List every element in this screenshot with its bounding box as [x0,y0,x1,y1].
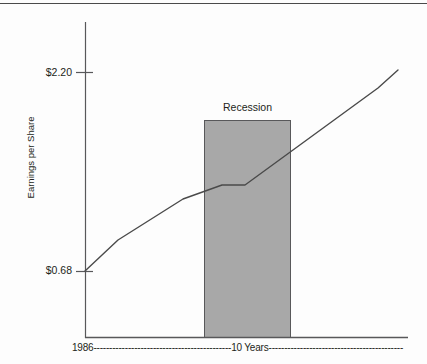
chart-figure: $2.20 $0.68 Earnings per Share Recession… [0,0,427,364]
recession-annotation-label: Recession [204,101,291,113]
y-axis-tick-label-bottom: $0.68 [22,264,72,276]
chart-plot-area [0,0,427,364]
y-axis-title: Earnings per Share [25,98,36,218]
y-axis-tick-label-top: $2.20 [22,66,72,78]
recession-band [205,121,291,338]
x-axis-caption: 1986------------------------------------… [72,342,417,353]
